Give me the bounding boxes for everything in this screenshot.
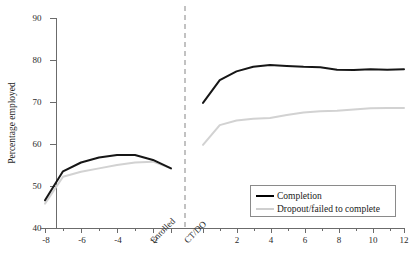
- plot-area: [0, 0, 416, 278]
- legend-entry-completion: Completion: [256, 189, 390, 202]
- legend-label-completion: Completion: [277, 190, 322, 202]
- legend-label-dropout: Dropout/failed to complete: [277, 203, 380, 215]
- employment-line-chart: Percentage employed 90 80 70 60 50 40 -8…: [0, 0, 416, 278]
- chart-legend: Completion Dropout/failed to complete: [250, 185, 396, 217]
- legend-line-swatch-dropout: [256, 208, 274, 210]
- series-completion: [45, 65, 404, 200]
- legend-line-swatch-completion: [256, 195, 274, 197]
- legend-entry-dropout: Dropout/failed to complete: [256, 202, 390, 215]
